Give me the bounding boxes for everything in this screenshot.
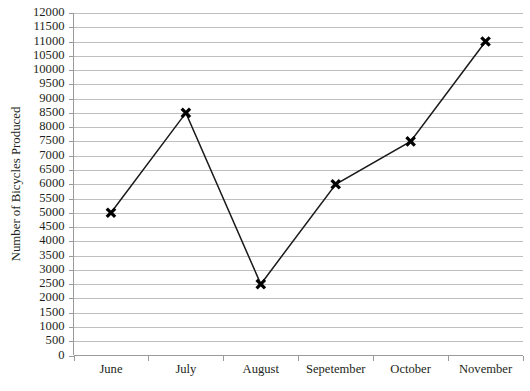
y-tick-label: 4000 — [39, 233, 64, 247]
x-tick-label-august: August — [243, 362, 280, 376]
y-tick-label: 4500 — [39, 219, 64, 233]
y-tick-label: 9500 — [39, 76, 64, 90]
y-tick-label: 7500 — [39, 133, 64, 147]
y-tick-label: 3000 — [39, 262, 64, 276]
y-tick-label: 1000 — [39, 319, 64, 333]
y-tick-label: 500 — [46, 333, 65, 347]
chart-canvas: 0500100015002000250030003500400045005000… — [0, 0, 530, 391]
y-tick-label: 2500 — [39, 276, 64, 290]
y-tick-label: 2000 — [39, 290, 64, 304]
line-chart: 0500100015002000250030003500400045005000… — [0, 0, 530, 391]
y-tick-label: 11500 — [33, 19, 64, 33]
y-tick-label: 8000 — [39, 119, 64, 133]
y-tick-label: 5000 — [39, 205, 64, 219]
y-tick-label: 6000 — [39, 176, 64, 190]
x-tick-label-july: July — [175, 362, 197, 376]
y-tick-label: 11000 — [33, 34, 64, 48]
y-tick-label: 10000 — [33, 62, 64, 76]
y-axis-title: Number of Bicycles Produced — [9, 106, 23, 261]
y-tick-label: 1500 — [39, 305, 64, 319]
x-tick-label-october: October — [390, 362, 431, 376]
y-tick-label: 8500 — [39, 105, 64, 119]
x-tick-label-november: November — [459, 362, 513, 376]
y-tick-label: 7000 — [39, 148, 64, 162]
y-tick-label: 3500 — [39, 248, 64, 262]
y-tick-label: 5500 — [39, 191, 64, 205]
x-tick-label-sepetember: Sepetember — [306, 362, 366, 376]
y-tick-label: 0 — [58, 348, 64, 362]
y-tick-label: 9000 — [39, 91, 64, 105]
y-tick-label: 12000 — [33, 5, 64, 19]
x-tick-label-june: June — [99, 362, 122, 376]
chart-background — [0, 0, 530, 391]
y-tick-label: 6500 — [39, 162, 64, 176]
y-tick-label: 10500 — [33, 48, 64, 62]
